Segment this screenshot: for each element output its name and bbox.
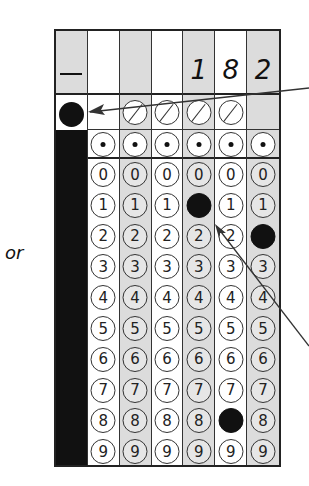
digit-bubble[interactable]: 3: [218, 254, 243, 279]
digit-bubble[interactable]: 7: [218, 378, 243, 403]
fraction-slash-row: [247, 95, 279, 130]
decimal-point-row: [88, 130, 119, 159]
fraction-slash-row: [120, 95, 151, 130]
answer-column-4: 10123456789: [183, 31, 215, 465]
digit-bubble[interactable]: 5: [186, 316, 211, 341]
slash-icon: [128, 103, 143, 121]
digit-bubble[interactable]: 4: [218, 285, 243, 310]
answer-column-2: 0123456789: [120, 31, 152, 465]
grid-in-answer-grid: 0123456789012345678901234567891012345678…: [54, 29, 281, 467]
digit-bubble-filled[interactable]: 1: [186, 193, 211, 218]
answer-column-3: 0123456789: [152, 31, 184, 465]
digit-bubble[interactable]: 7: [91, 378, 116, 403]
digit-bubble[interactable]: 1: [91, 193, 116, 218]
digit-bubble[interactable]: 5: [251, 316, 276, 341]
decimal-point-row: [247, 130, 279, 159]
digit-bubble[interactable]: 0: [123, 162, 148, 187]
column-header-box: 2: [247, 31, 279, 95]
digit-bubble[interactable]: 3: [186, 254, 211, 279]
digit-bubble[interactable]: 4: [123, 285, 148, 310]
fraction-slash-row: [88, 95, 119, 130]
decimal-point-bubble[interactable]: [186, 132, 211, 157]
digit-bubble[interactable]: 1: [251, 193, 276, 218]
digit-bubble[interactable]: 5: [218, 316, 243, 341]
or-label: or: [5, 242, 23, 263]
minus-sign: [60, 73, 82, 75]
decimal-dot-icon: [164, 142, 169, 147]
digit-bubble[interactable]: 7: [186, 378, 211, 403]
digit-bubble-filled[interactable]: 2: [251, 224, 276, 249]
digit-bubble[interactable]: 9: [251, 439, 276, 464]
fraction-slash-bubble[interactable]: [123, 100, 148, 125]
decimal-point-bubble[interactable]: [91, 132, 116, 157]
digit-bubble[interactable]: 0: [154, 162, 179, 187]
digit-bubble[interactable]: 8: [91, 408, 116, 433]
digit-bubble[interactable]: 6: [186, 347, 211, 372]
negative-sign-bubble-filled[interactable]: [59, 102, 84, 127]
digit-bubble[interactable]: 0: [251, 162, 276, 187]
decimal-point-bubble[interactable]: [218, 132, 243, 157]
digit-bubble[interactable]: 9: [123, 439, 148, 464]
digit-bubble[interactable]: 1: [218, 193, 243, 218]
fraction-slash-row: [183, 95, 214, 130]
digit-bubble[interactable]: 5: [91, 316, 116, 341]
answer-column-1: 0123456789: [88, 31, 120, 465]
fraction-slash-bubble[interactable]: [154, 100, 179, 125]
digit-bubble[interactable]: 3: [123, 254, 148, 279]
digit-bubble[interactable]: 6: [251, 347, 276, 372]
decimal-point-row: [183, 130, 214, 159]
decimal-dot-icon: [196, 142, 201, 147]
negative-sign-column: [56, 31, 88, 465]
digit-bubble[interactable]: 8: [251, 408, 276, 433]
digit-bubble[interactable]: 6: [91, 347, 116, 372]
digit-bubble[interactable]: 9: [91, 439, 116, 464]
digit-bubble[interactable]: 4: [251, 285, 276, 310]
decimal-point-bubble[interactable]: [123, 132, 148, 157]
decimal-point-row: [120, 130, 151, 159]
digit-bubble[interactable]: 4: [154, 285, 179, 310]
digit-bubble[interactable]: 1: [123, 193, 148, 218]
digit-bubble[interactable]: 8: [123, 408, 148, 433]
digit-bubble[interactable]: 6: [123, 347, 148, 372]
fraction-slash-bubble[interactable]: [186, 100, 211, 125]
digit-bubble[interactable]: 7: [251, 378, 276, 403]
digit-bubble[interactable]: 0: [91, 162, 116, 187]
slash-icon: [223, 103, 238, 121]
digit-bubble[interactable]: 7: [123, 378, 148, 403]
decimal-dot-icon: [101, 142, 106, 147]
column-header-box: 8: [215, 31, 246, 95]
digit-bubble[interactable]: 6: [154, 347, 179, 372]
fraction-slash-row: [152, 95, 183, 130]
fraction-slash-bubble[interactable]: [218, 100, 243, 125]
decimal-point-bubble[interactable]: [154, 132, 179, 157]
digit-bubble[interactable]: 5: [154, 316, 179, 341]
digit-bubble[interactable]: 0: [186, 162, 211, 187]
digit-bubble[interactable]: 2: [123, 224, 148, 249]
digit-bubble[interactable]: 2: [218, 224, 243, 249]
digit-bubble[interactable]: 6: [218, 347, 243, 372]
slash-icon: [192, 103, 207, 121]
digit-bubble[interactable]: 8: [154, 408, 179, 433]
digit-bubble[interactable]: 3: [154, 254, 179, 279]
digit-bubble[interactable]: 2: [186, 224, 211, 249]
digit-bubble[interactable]: 9: [218, 439, 243, 464]
digit-bubble[interactable]: 2: [154, 224, 179, 249]
column-header-box: [120, 31, 151, 95]
digit-bubble[interactable]: 0: [218, 162, 243, 187]
decimal-dot-icon: [261, 142, 266, 147]
digit-bubble[interactable]: 7: [154, 378, 179, 403]
digit-bubble[interactable]: 3: [251, 254, 276, 279]
digit-bubble[interactable]: 4: [186, 285, 211, 310]
digit-bubble[interactable]: 2: [91, 224, 116, 249]
digit-bubble-filled[interactable]: 8: [218, 408, 243, 433]
digit-bubble[interactable]: 8: [186, 408, 211, 433]
written-digit: 2: [255, 55, 272, 85]
digit-bubble[interactable]: 4: [91, 285, 116, 310]
digit-bubble[interactable]: 3: [91, 254, 116, 279]
digit-bubble[interactable]: 9: [154, 439, 179, 464]
column-header-box: [152, 31, 183, 95]
digit-bubble[interactable]: 1: [154, 193, 179, 218]
decimal-point-bubble[interactable]: [251, 132, 276, 157]
digit-bubble[interactable]: 9: [186, 439, 211, 464]
digit-bubble[interactable]: 5: [123, 316, 148, 341]
